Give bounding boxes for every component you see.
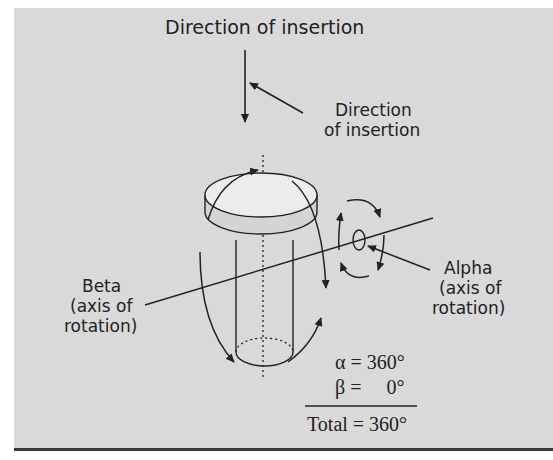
beta-label-line3: rotation): [64, 316, 137, 336]
rotation-diagram: [0, 0, 553, 460]
beta-equation: β = 0°: [335, 376, 404, 399]
alpha-label-line1: Alpha: [444, 258, 492, 278]
insertion-label-line1: Direction: [335, 100, 412, 120]
alpha-label-line2: (axis of: [439, 278, 501, 298]
beta-label-line2: (axis of: [70, 296, 132, 316]
insertion-label-line2: of insertion: [324, 120, 420, 140]
insertion-pointer: [250, 83, 303, 113]
beta-label-line1: Beta: [82, 276, 121, 296]
total-equation: Total = 360°: [307, 413, 407, 436]
alpha-label-line3: rotation): [432, 298, 505, 318]
alpha-equation: α = 360°: [335, 351, 405, 374]
alpha-pointer: [368, 246, 430, 270]
top-title: Direction of insertion: [165, 17, 364, 37]
